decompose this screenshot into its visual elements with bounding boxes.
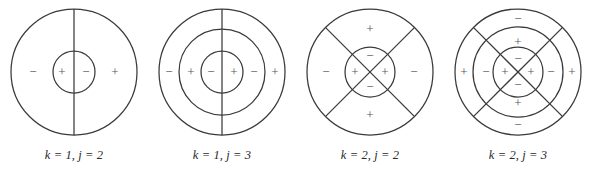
sign-right-inner: + (381, 64, 388, 79)
figure-panel-k1-j2: − + − + k = 1, j = 2 (0, 0, 148, 177)
sign-top-inner: − (366, 48, 373, 63)
sign-left-outer: − (29, 64, 36, 79)
diagram-k2-j3: + − + + − + − + − − + − (444, 0, 592, 146)
sign-bottom-outer: − (514, 117, 521, 132)
sign-right-outer: + (271, 64, 278, 79)
panel-caption-k1-j2: k = 1, j = 2 (0, 148, 148, 163)
sign-top-inner: − (514, 51, 521, 66)
diagram-k2-j2: − + + − + − − + (296, 0, 444, 146)
sign-left-inner: + (501, 64, 508, 79)
sign-bottom-inner: − (366, 79, 373, 94)
sign-left-outer: − (322, 64, 329, 79)
sign-right-inner: − (82, 64, 89, 79)
sign-left-middle: − (482, 64, 489, 79)
sign-left-inner: − (207, 64, 214, 79)
figure-panel-k2-j3: + − + + − + − + − − + − k = 2, j = 3 (444, 0, 592, 177)
sign-left-outer: − (165, 64, 172, 79)
panel-caption-k2-j2: k = 2, j = 2 (296, 148, 444, 163)
sign-right-outer: + (568, 64, 575, 79)
diagram-k1-j2: − + − + (0, 0, 148, 146)
sign-left-middle: + (187, 64, 194, 79)
sign-top-outer: − (514, 11, 521, 26)
sign-bottom-inner: − (514, 77, 521, 92)
sign-right-middle: − (250, 64, 257, 79)
panel-caption-k1-j3: k = 1, j = 3 (148, 148, 296, 163)
figure-panel-k2-j2: − + + − + − − + k = 2, j = 2 (296, 0, 444, 177)
sign-right-outer: + (111, 64, 118, 79)
sign-left-inner: + (351, 64, 358, 79)
diagram-k1-j3: − + − + − + (148, 0, 296, 146)
sign-left-inner: + (58, 64, 65, 79)
sign-left-outer: + (460, 64, 467, 79)
figure-panel-row: − + − + k = 1, j = 2 − + (0, 0, 594, 177)
panel-caption-k2-j3: k = 2, j = 3 (444, 148, 592, 163)
sign-top-outer: + (366, 21, 373, 36)
sign-right-outer: − (410, 64, 417, 79)
sign-right-inner: + (527, 64, 534, 79)
figure-panel-k1-j3: − + − + − + k = 1, j = 3 (148, 0, 296, 177)
sign-bottom-outer: + (366, 107, 373, 122)
sign-right-inner: + (230, 64, 237, 79)
sign-bottom-middle: + (514, 95, 521, 110)
sign-right-middle: − (547, 64, 554, 79)
sign-top-middle: + (514, 34, 521, 49)
